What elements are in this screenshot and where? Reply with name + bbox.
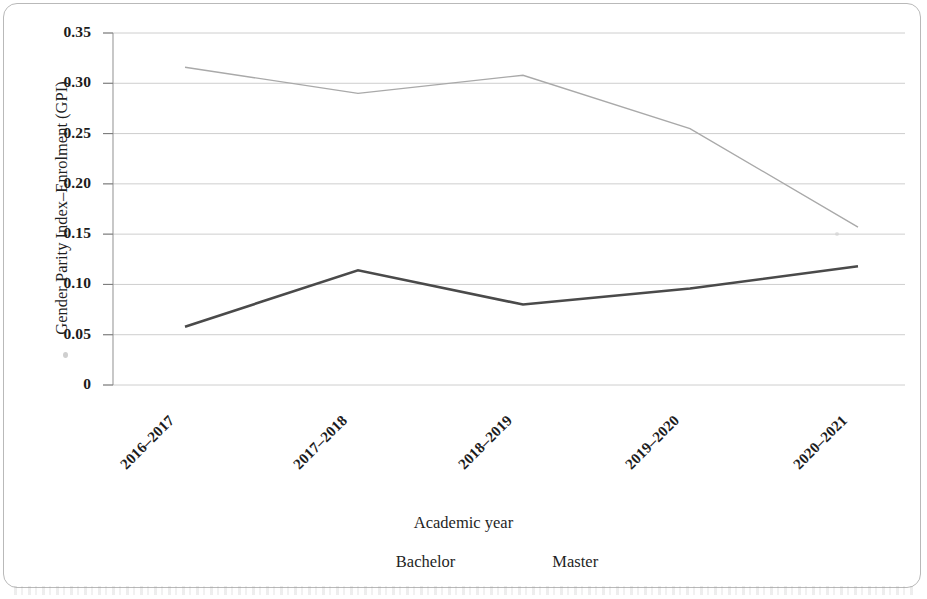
line-chart-plot <box>0 0 927 599</box>
legend-label-bachelor: Bachelor <box>396 552 456 572</box>
legend-label-master: Master <box>552 552 598 572</box>
x-axis-title: Academic year <box>0 513 927 533</box>
legend-entry-master: Master <box>485 552 598 572</box>
gridlines-group <box>103 33 905 385</box>
y-axis-title: Gender Parity Index–Enrolment (GPI) <box>52 28 72 388</box>
data-series-group <box>185 67 858 326</box>
y-tick-marks <box>103 33 113 385</box>
series-line-master <box>185 266 858 326</box>
chart-figure: 00.050.100.150.200.250.300.35 2016–20172… <box>0 0 927 599</box>
legend-entry-bachelor: Bachelor <box>329 552 456 572</box>
series-line-bachelor <box>185 67 858 227</box>
chart-legend: Bachelor Master <box>0 552 927 572</box>
